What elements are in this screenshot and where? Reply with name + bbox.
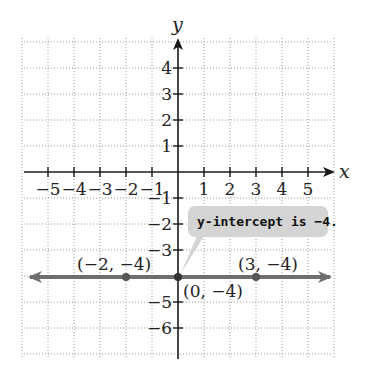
x-tick-label: −4 — [61, 179, 86, 199]
x-axis-label: x — [339, 160, 350, 182]
point-label-neg2-neg4: (−2, −4) — [77, 254, 151, 274]
y-tick-label: 4 — [161, 58, 172, 78]
point-label-3-neg4: (3, −4) — [238, 254, 298, 274]
callout-text: y-intercept is −4. — [197, 214, 338, 229]
y-tick-label: −5 — [147, 292, 172, 312]
y-tick-label: −6 — [147, 318, 172, 338]
y-tick-label: −1 — [147, 188, 172, 208]
x-tick-label: 2 — [225, 179, 236, 199]
y-axis-label: y — [171, 13, 183, 35]
callout-pointer — [180, 236, 204, 275]
point-label-0-neg4: (0, −4) — [183, 281, 243, 301]
y-tick-label: 3 — [161, 84, 172, 104]
x-tick-label: 5 — [303, 179, 314, 199]
x-tick-label: −3 — [87, 179, 112, 199]
x-tick-label: 3 — [251, 179, 262, 199]
x-tick-label: −5 — [35, 179, 60, 199]
point-neg2-neg4 — [122, 273, 130, 281]
coordinate-plane: x y −5−4−3−2−1123454321−1−2−3−5−6 y-inte… — [0, 0, 377, 379]
point-0-neg4 — [174, 273, 182, 281]
y-tick-label: 1 — [161, 136, 172, 156]
x-tick-label: 4 — [277, 179, 288, 199]
x-tick-label: −2 — [113, 179, 138, 199]
y-tick-label: −2 — [147, 214, 172, 234]
point-3-neg4 — [252, 273, 260, 281]
y-tick-label: 2 — [161, 110, 172, 130]
x-tick-label: 1 — [199, 179, 210, 199]
axis-ticks: −5−4−3−2−1123454321−1−2−3−5−6 — [35, 58, 313, 338]
